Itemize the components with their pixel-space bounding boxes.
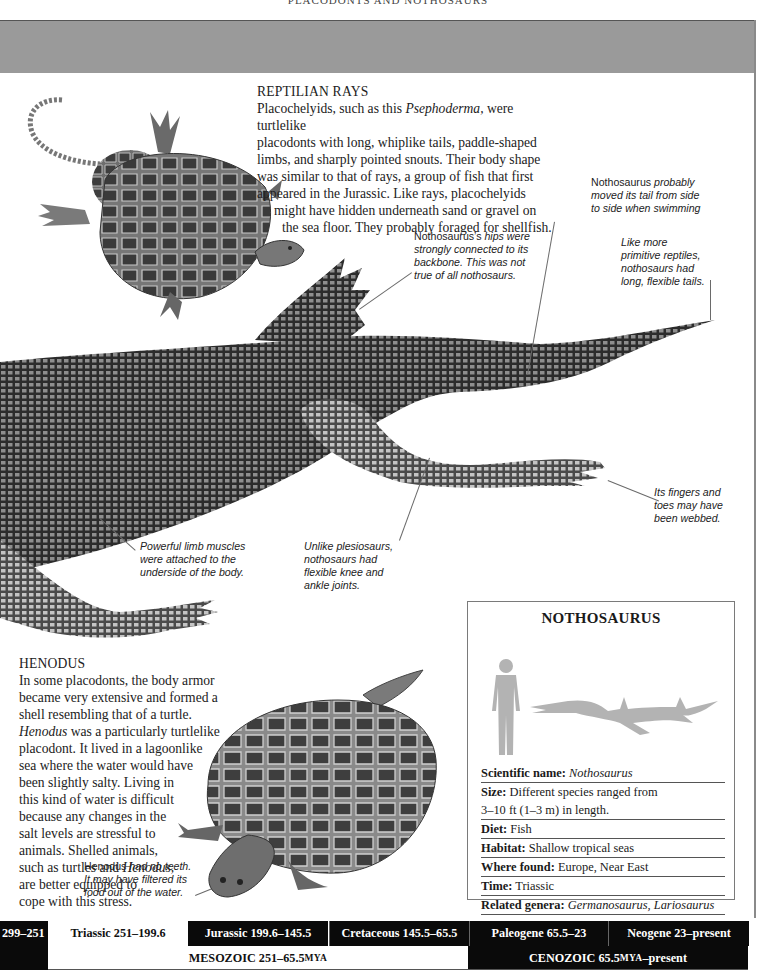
reptilian-rays-line: Placochelyids, such as this Psephoderma,… xyxy=(257,100,557,134)
reptilian-rays-line: might have hidden underneath sand or gra… xyxy=(257,202,557,219)
nothosaurus-factbox: NOTHOSAURUS Scientific name: Nothosaurus… xyxy=(467,601,735,900)
fact-size: Size: Different species ranged from xyxy=(481,783,725,801)
header-band xyxy=(0,20,756,73)
timeline-period-neogene: Neogene 23–present xyxy=(608,921,749,946)
caption-no-teeth: Henodus had no teeth. It may have filter… xyxy=(84,860,224,899)
reptilian-rays-heading: REPTILIAN RAYS xyxy=(257,83,557,100)
caption-tail-swimming: Nothosaurus probably moved its tail from… xyxy=(591,176,741,215)
timeline-era-paleozoic xyxy=(0,946,48,970)
fact-related-genera: Related genera: Germanosaurus, Lariosaur… xyxy=(481,896,725,915)
fact-size-continued: 3–10 ft (1–3 m) in length. xyxy=(481,801,725,820)
reptilian-rays-line: limbs, and sharply pointed snouts. Their… xyxy=(257,151,557,168)
caption-flexible-tails: Like more primitive reptiles, nothosaurs… xyxy=(621,236,741,288)
timeline-rule xyxy=(48,969,748,970)
timeline-periods: 299–251 Triassic 251–199.6 Jurassic 199.… xyxy=(0,921,776,946)
nothosaurus-silhouette xyxy=(528,687,728,742)
timeline-period-triassic: Triassic 251–199.6 xyxy=(48,921,188,946)
reptilian-rays-line: was similar to that of rays, a group of … xyxy=(257,168,557,185)
fact-time: Time: Triassic xyxy=(481,877,725,896)
caption-knee-joints: Unlike plesiosaurs, nothosaurs had flexi… xyxy=(304,540,424,592)
fact-where-found: Where found: Europe, Near East xyxy=(481,858,725,877)
factbox-facts: Scientific name: Nothosaurus Size: Diffe… xyxy=(481,764,725,915)
fact-diet: Diet: Fish xyxy=(481,820,725,839)
caption-limb-muscles: Powerful limb muscles were attached to t… xyxy=(140,540,290,579)
reptilian-rays-line: appeared in the Jurassic. Like rays, pla… xyxy=(257,185,557,202)
timeline-period-permian: 299–251 xyxy=(0,921,50,946)
timeline-period-paleogene: Paleogene 65.5–23 xyxy=(469,921,608,946)
timeline-eras: MESOZOIC 251–65.5 MYA CENOZOIC 65.5 MYA–… xyxy=(0,946,776,970)
caption-hips: Nothosaurus’s hips were strongly connect… xyxy=(414,230,574,282)
running-head: PLACODONTS AND NOTHOSAURS xyxy=(0,0,776,6)
reptilian-rays-line: placodonts with long, whiplike tails, pa… xyxy=(257,134,557,151)
human-scale-silhouette xyxy=(488,657,524,757)
timeline-era-mesozoic: MESOZOIC 251–65.5 MYA xyxy=(48,946,468,970)
page-edge-rule xyxy=(754,20,756,918)
factbox-title: NOTHOSAURUS xyxy=(468,610,734,627)
fact-habitat: Habitat: Shallow tropical seas xyxy=(481,839,725,858)
reptilian-rays-section: REPTILIAN RAYS Placochelyids, such as th… xyxy=(257,83,557,236)
caption-webbed-fingers: Its fingers and toes may have been webbe… xyxy=(654,486,754,525)
timeline-era-cenozoic: CENOZOIC 65.5 MYA–present xyxy=(468,946,748,970)
timeline-period-jurassic: Jurassic 199.6–145.5 xyxy=(188,921,328,946)
timeline-period-cretaceous: Cretaceous 145.5–65.5 xyxy=(329,921,469,946)
fact-scientific-name: Scientific name: Nothosaurus xyxy=(481,764,725,783)
